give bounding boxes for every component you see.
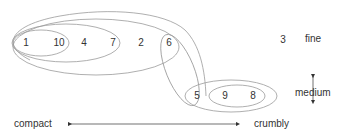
item-8: 8 [250, 90, 256, 102]
label-fine: fine [305, 33, 321, 45]
label-medium: medium [295, 87, 331, 99]
item-9: 9 [222, 90, 228, 102]
cluster-9-8 [209, 85, 265, 107]
item-4: 4 [81, 37, 87, 49]
item-6: 6 [166, 37, 172, 49]
item-1: 1 [23, 37, 29, 49]
label-crumbly: crumbly [254, 118, 289, 130]
label-compact: compact [14, 118, 52, 130]
item-10: 10 [53, 37, 64, 49]
item-3: 3 [280, 34, 286, 46]
cluster-diagram [0, 0, 359, 137]
item-2: 2 [138, 37, 144, 49]
item-7: 7 [110, 37, 116, 49]
item-5: 5 [194, 90, 200, 102]
